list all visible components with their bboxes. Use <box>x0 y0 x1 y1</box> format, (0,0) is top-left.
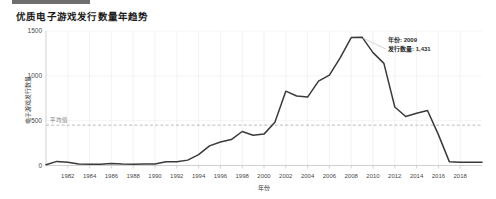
mean-line-label: 平均值 <box>50 116 68 124</box>
x-axis-title: 年份 <box>258 184 270 192</box>
line-chart-plot: 050010001500 198219841986198819901992199… <box>0 0 496 199</box>
y-axis-title: 电子游戏发行数量 <box>24 76 32 124</box>
x-axis-tick-label: 1990 <box>148 173 162 179</box>
x-axis-tick-label: 1982 <box>61 173 75 179</box>
x-axis-tick-label: 1998 <box>236 173 250 179</box>
y-axis-tick-label: 1500 <box>28 27 43 34</box>
x-axis-tick-label: 1986 <box>105 173 119 179</box>
x-axis-tick-label: 2004 <box>301 173 315 179</box>
y-axis-tick-label: 500 <box>31 117 42 124</box>
chart-container: 优质电子游戏发行数量年趋势 050010001500 1982198419861… <box>0 0 496 199</box>
x-axis-tick-label: 1994 <box>192 173 206 179</box>
x-axis-tick-label: 2014 <box>410 173 424 179</box>
annotation-year-label: 年份: 2009 <box>388 36 418 44</box>
annotation-count-label: 发行数量: 1,431 <box>387 45 431 53</box>
x-axis-tick-label: 2008 <box>345 173 359 179</box>
x-axis-tick-label: 2002 <box>279 173 293 179</box>
x-axis-tick-label: 1988 <box>127 173 141 179</box>
x-axis-tick-label: 1984 <box>83 173 97 179</box>
y-axis-tick-label: 0 <box>38 162 42 169</box>
x-axis-tick-label: 1992 <box>170 173 184 179</box>
x-axis-tick-label: 2012 <box>388 173 402 179</box>
x-axis-tick-label: 1996 <box>214 173 228 179</box>
x-axis-tick-label: 2010 <box>366 173 380 179</box>
x-axis-ticks: 1982198419861988199019921994199619982000… <box>61 166 467 179</box>
x-axis-tick-label: 2016 <box>432 173 446 179</box>
x-axis-tick-label: 2000 <box>257 173 271 179</box>
x-axis-tick-label: 2006 <box>323 173 337 179</box>
x-axis-tick-label: 2018 <box>454 173 468 179</box>
